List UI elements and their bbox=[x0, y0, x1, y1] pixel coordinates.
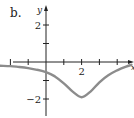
figure-label: b. bbox=[10, 6, 22, 20]
y-axis-label: y bbox=[36, 5, 43, 15]
x-axis bbox=[13, 60, 134, 64]
x-tick-label: 2 bbox=[78, 66, 84, 77]
chart-plot: b. x y 2 2−2 bbox=[0, 0, 134, 118]
data-curve bbox=[0, 65, 131, 97]
x-tick-labels: 2 bbox=[78, 66, 84, 77]
y-axis-arrow-icon bbox=[44, 5, 48, 11]
y-tick-label: 2 bbox=[35, 20, 41, 31]
y-tick-label: −2 bbox=[26, 94, 41, 105]
